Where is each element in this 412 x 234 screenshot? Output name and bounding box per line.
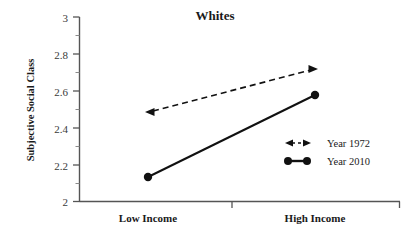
- y-tick-label: 2: [63, 196, 69, 208]
- x-category-label-low-income: Low Income: [119, 212, 177, 224]
- y-tick-label: 2.6: [54, 86, 68, 98]
- legend-label-year-1972: Year 1972: [327, 138, 370, 149]
- y-axis-title: Subjective Social Class: [25, 59, 36, 162]
- chart-title: Whites: [196, 8, 235, 23]
- chart-figure: Whites Subjective Social Class 3 2.8 2.6: [0, 0, 412, 234]
- legend-2010-marker-left-icon: [284, 157, 292, 165]
- series-2010-marker-high-income: [311, 91, 319, 99]
- legend-label-year-2010: Year 2010: [327, 156, 370, 167]
- legend-2010-marker-right-icon: [303, 157, 311, 165]
- chart-canvas: Whites Subjective Social Class 3 2.8 2.6: [0, 0, 412, 234]
- x-category-label-high-income: High Income: [285, 212, 346, 224]
- series-2010-marker-low-income: [144, 173, 152, 181]
- y-tick-label: 2.2: [54, 160, 68, 172]
- y-tick-label: 2.8: [54, 49, 68, 61]
- y-tick-label: 2.4: [54, 123, 68, 135]
- y-tick-label: 3: [63, 12, 69, 24]
